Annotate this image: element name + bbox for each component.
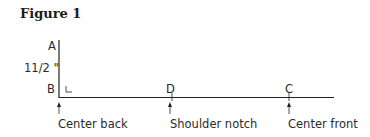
center-back-label: Center back (58, 117, 128, 131)
point-b-label: B (47, 82, 55, 96)
right-angle-mark (66, 86, 72, 92)
point-d-label: D (166, 82, 175, 96)
point-a-label: A (48, 39, 56, 53)
measurement-label: 11/2 " (24, 61, 59, 75)
center-front-label: Center front (288, 117, 358, 131)
shoulder-notch-label: Shoulder notch (170, 117, 257, 131)
point-c-label: C (285, 82, 293, 96)
